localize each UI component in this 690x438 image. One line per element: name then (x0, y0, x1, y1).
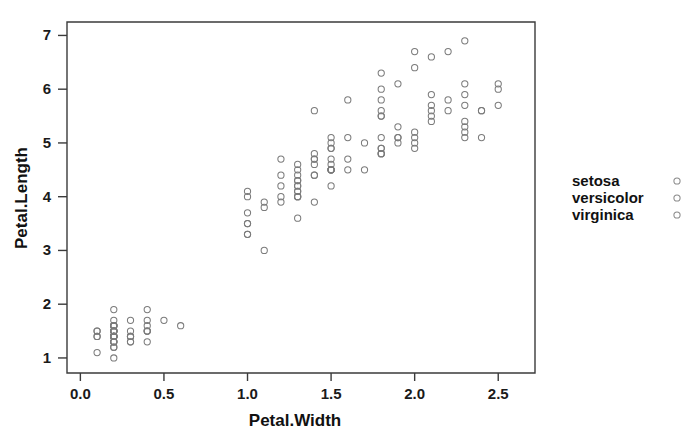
data-point (361, 140, 367, 146)
data-point (345, 97, 351, 103)
data-point (378, 70, 384, 76)
data-point (478, 108, 484, 114)
y-tick-label: 4 (43, 188, 52, 205)
data-point (478, 134, 484, 140)
data-point (462, 81, 468, 87)
data-point (495, 102, 501, 108)
x-tick-label: 0.5 (154, 385, 175, 402)
x-axis-ticks: 0.00.51.01.52.02.5 (70, 373, 509, 402)
data-point (261, 247, 267, 253)
data-point (462, 38, 468, 44)
data-points (94, 38, 501, 361)
data-point (345, 167, 351, 173)
data-point (328, 183, 334, 189)
data-point (244, 220, 250, 226)
data-point (278, 156, 284, 162)
data-point (295, 215, 301, 221)
y-axis-title: Petal.Length (12, 147, 31, 249)
data-point (311, 172, 317, 178)
data-point (378, 86, 384, 92)
data-point (345, 134, 351, 140)
data-point (378, 134, 384, 140)
data-point (445, 48, 451, 54)
data-point (395, 81, 401, 87)
data-point (311, 108, 317, 114)
data-point (111, 306, 117, 312)
data-point (345, 156, 351, 162)
legend-marker-versicolor (674, 195, 680, 201)
x-axis-title: Petal.Width (249, 411, 341, 430)
data-point (361, 167, 367, 173)
data-point (412, 65, 418, 71)
legend-marker-virginica (674, 212, 680, 218)
data-point (462, 91, 468, 97)
data-point (378, 97, 384, 103)
data-point (428, 54, 434, 60)
data-point (445, 97, 451, 103)
data-point (144, 339, 150, 345)
data-point (278, 172, 284, 178)
legend-label-setosa: setosa (572, 172, 620, 189)
data-point (462, 102, 468, 108)
y-tick-label: 3 (43, 241, 51, 258)
x-tick-label: 2.5 (488, 385, 509, 402)
x-tick-label: 2.0 (404, 385, 425, 402)
data-point (178, 323, 184, 329)
scatter-plot-figure: 0.00.51.01.52.02.5 1234567 Petal.Width P… (0, 0, 690, 438)
x-tick-label: 1.0 (237, 385, 258, 402)
data-point (244, 210, 250, 216)
data-point (111, 355, 117, 361)
y-tick-label: 2 (43, 295, 51, 312)
data-point (311, 199, 317, 205)
legend-marker-setosa (674, 178, 680, 184)
legend-label-versicolor: versicolor (572, 189, 644, 206)
legend-label-virginica: virginica (572, 206, 634, 223)
y-tick-label: 5 (43, 134, 51, 151)
plot-canvas: 0.00.51.01.52.02.5 1234567 Petal.Width P… (0, 0, 690, 438)
legend: setosaversicolorvirginica (572, 172, 680, 223)
data-point (144, 306, 150, 312)
data-point (278, 183, 284, 189)
data-point (428, 91, 434, 97)
x-tick-label: 0.0 (70, 385, 91, 402)
data-point (395, 124, 401, 130)
data-point (412, 48, 418, 54)
y-axis-ticks: 1234567 (43, 26, 67, 366)
y-tick-label: 6 (43, 80, 51, 97)
data-point (161, 317, 167, 323)
data-point (127, 317, 133, 323)
x-tick-label: 1.5 (321, 385, 342, 402)
data-point (94, 349, 100, 355)
data-point (445, 108, 451, 114)
y-tick-label: 1 (43, 349, 51, 366)
data-point (244, 231, 250, 237)
y-tick-label: 7 (43, 26, 51, 43)
